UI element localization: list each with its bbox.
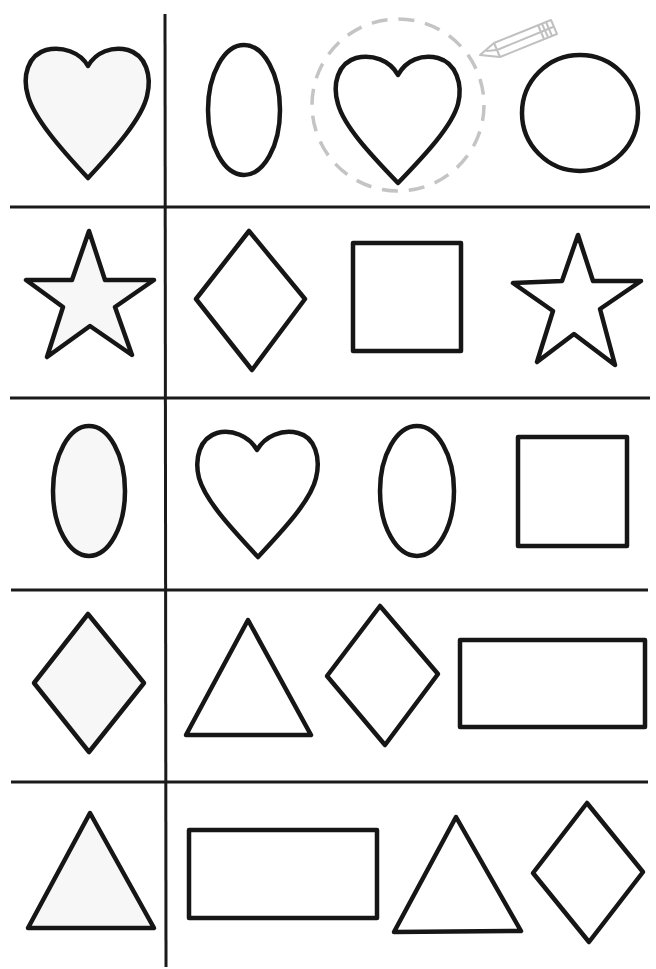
option-square-row2[interactable] [353, 243, 461, 351]
option-diamond-row5[interactable] [533, 803, 643, 942]
oval-icon [380, 426, 454, 556]
circle-icon [522, 55, 638, 171]
option-diamond-row4[interactable] [327, 606, 438, 745]
oval-icon [208, 45, 280, 175]
heart-icon [197, 432, 317, 557]
rectangle-icon [189, 830, 377, 918]
diamond-icon [196, 231, 305, 370]
row-1 [26, 19, 638, 191]
option-oval-row1[interactable] [208, 45, 280, 175]
shape-matching-worksheet [0, 0, 656, 969]
pencil-icon [480, 20, 557, 57]
heart-icon [336, 57, 460, 183]
row-4 [34, 606, 645, 752]
option-circle-row1[interactable] [522, 55, 638, 171]
sample-heart-icon [26, 49, 149, 178]
row-2 [26, 231, 641, 370]
sample-diamond-icon [34, 614, 144, 752]
option-heart-row3[interactable] [197, 432, 317, 557]
row-3 [53, 426, 627, 557]
star-icon [513, 235, 641, 365]
sample-triangle-icon [28, 813, 154, 928]
triangle-icon [394, 817, 521, 932]
option-triangle-row5[interactable] [394, 817, 521, 932]
option-heart-row1[interactable] [312, 19, 484, 191]
option-triangle-row4[interactable] [186, 620, 311, 735]
square-icon [518, 437, 627, 546]
option-square-row3[interactable] [518, 437, 627, 546]
diamond-icon [327, 606, 438, 745]
diamond-icon [533, 803, 643, 942]
option-rectangle-row5[interactable] [189, 830, 377, 918]
column-divider [165, 14, 166, 967]
row-5 [28, 803, 643, 942]
triangle-icon [186, 620, 311, 735]
sample-oval-icon [53, 426, 125, 556]
rectangle-icon [460, 640, 645, 727]
option-rectangle-row4[interactable] [460, 640, 645, 727]
option-oval-row3[interactable] [380, 426, 454, 556]
sample-star-icon [26, 231, 154, 357]
square-icon [353, 243, 461, 351]
option-diamond-row2[interactable] [196, 231, 305, 370]
option-star-row2[interactable] [513, 235, 641, 365]
